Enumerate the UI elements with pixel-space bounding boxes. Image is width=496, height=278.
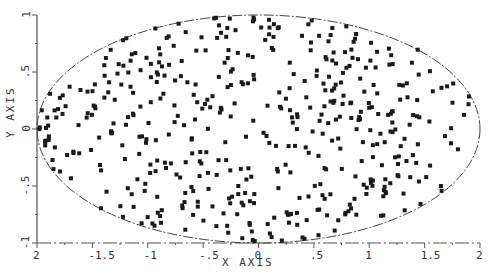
data-point [226,56,230,60]
data-point [268,232,272,236]
data-point [419,202,423,206]
data-point [224,158,228,162]
data-point [417,73,421,77]
data-point [52,167,56,171]
data-point [410,61,414,65]
data-point [321,132,325,136]
data-point [330,59,334,63]
data-point [153,224,157,228]
data-point [165,36,169,40]
data-point [53,108,57,112]
data-point [398,98,402,102]
data-point [305,218,309,222]
data-point [222,211,226,215]
data-point [309,41,313,45]
data-point [427,120,431,124]
data-point [396,173,400,177]
data-point [321,193,325,197]
data-point [391,62,395,66]
data-point [390,121,394,125]
data-point [428,164,432,168]
data-point [375,91,379,95]
data-point [323,88,327,92]
data-point [203,102,207,106]
data-point [451,82,455,86]
data-point [158,97,162,101]
data-point [330,89,334,93]
data-point [86,90,90,94]
data-point [323,166,327,170]
data-point [253,239,257,243]
data-point [266,222,270,226]
data-point [304,95,308,99]
data-point [241,82,245,86]
data-point [61,93,65,97]
data-point [378,132,382,136]
data-point [225,224,229,228]
data-point [252,192,256,196]
data-point [467,95,471,99]
data-point [236,192,240,196]
data-point [208,105,212,109]
data-point [45,116,49,120]
data-point [90,113,94,117]
data-point [417,180,421,184]
data-point [428,69,432,73]
data-point [277,90,281,94]
data-point [215,173,219,177]
data-point [381,194,385,198]
data-point [99,168,103,172]
data-point [252,18,256,22]
data-point [211,204,215,208]
data-point [97,136,101,140]
data-point [180,204,184,208]
data-point [126,71,130,75]
data-point [217,158,221,162]
data-point [380,163,384,167]
data-point [449,126,453,130]
data-point [99,206,103,210]
data-point [288,170,292,174]
data-point [129,85,133,89]
data-point [194,49,198,53]
data-point [137,152,141,156]
data-point [251,55,255,59]
data-point [440,86,444,90]
data-point [405,159,409,163]
data-point [77,151,81,155]
data-point [351,56,355,60]
data-point [456,147,460,151]
data-point [132,205,136,209]
data-point [292,72,296,76]
data-point [144,141,148,145]
data-point [322,104,326,108]
data-point [228,168,232,172]
data-point [131,91,135,95]
data-point [403,208,407,212]
x-tick-label: -1 [144,249,157,262]
data-point [53,145,57,149]
data-point [224,35,228,39]
data-point [148,163,152,167]
data-point [173,79,177,83]
data-point [243,191,247,195]
data-point [190,138,194,142]
data-point [383,140,387,144]
data-point [58,170,62,174]
data-point [339,81,343,85]
data-point [126,186,130,190]
data-point [332,99,336,103]
data-point [143,182,147,186]
data-point [300,34,304,38]
x-tick-label: .5 [310,249,323,262]
data-point [130,192,134,196]
data-point [445,84,449,88]
data-point [274,144,278,148]
data-point [43,140,47,144]
data-point [276,186,280,190]
data-point [86,111,90,115]
x-tick-label: 2 [33,249,40,262]
data-point [338,147,342,151]
data-point [140,221,144,225]
data-point [85,116,89,120]
